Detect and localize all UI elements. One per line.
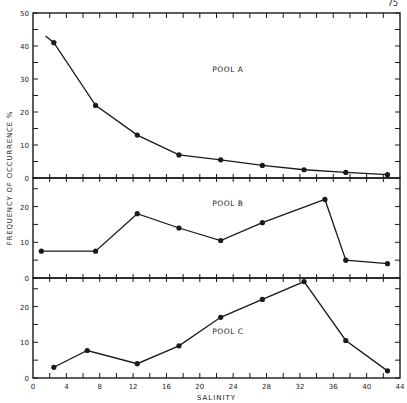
data-point — [343, 258, 348, 263]
data-point — [135, 211, 140, 216]
data-point — [301, 167, 306, 172]
x-tick-label: 44 — [396, 383, 405, 391]
y-tick-label: 50 — [20, 10, 29, 18]
x-tick-label: 4 — [64, 383, 69, 391]
data-line — [41, 199, 387, 263]
salinity-frequency-chart: 75 01020304050POOL A01020POOL B01020POOL… — [0, 0, 407, 403]
panel-frame — [33, 178, 400, 278]
y-tick-label: 20 — [20, 204, 29, 212]
data-point — [385, 261, 390, 266]
panel-pool-c: 01020POOL C — [20, 278, 400, 383]
x-tick-label: 24 — [229, 383, 238, 391]
y-tick-label: 20 — [20, 109, 29, 117]
x-tick-label: 12 — [129, 383, 138, 391]
data-point — [51, 365, 56, 370]
y-tick-label: 10 — [20, 339, 29, 347]
data-point — [260, 220, 265, 225]
data-point — [218, 315, 223, 320]
data-point — [301, 279, 306, 284]
panel-pool-b: 01020POOL B — [20, 178, 400, 283]
x-tick-label: 32 — [295, 383, 304, 391]
data-point — [385, 172, 390, 177]
data-point — [260, 297, 265, 302]
data-point — [176, 152, 181, 157]
y-tick-label: 30 — [20, 76, 29, 84]
chart-panels: 01020304050POOL A01020POOL B01020POOL C — [20, 10, 400, 383]
page-header: 75 — [388, 0, 398, 8]
data-point — [260, 163, 265, 168]
data-point — [135, 133, 140, 138]
y-tick-label: 0 — [25, 275, 29, 283]
data-point — [343, 170, 348, 175]
page-number: 75 — [388, 0, 398, 8]
y-tick-label: 20 — [20, 304, 29, 312]
y-tick-label: 0 — [25, 375, 29, 383]
x-tick-label: 16 — [162, 383, 171, 391]
x-tick-label: 28 — [262, 383, 271, 391]
data-point — [51, 40, 56, 45]
panel-label: POOL C — [212, 327, 243, 336]
data-point — [343, 338, 348, 343]
x-tick-label: 20 — [195, 383, 204, 391]
panel-pool-a: 01020304050POOL A — [20, 10, 400, 183]
y-tick-label: 10 — [20, 142, 29, 150]
data-point — [176, 343, 181, 348]
y-tick-label: 0 — [25, 175, 29, 183]
x-tick-label: 40 — [362, 383, 371, 391]
data-point — [218, 157, 223, 162]
data-point — [176, 225, 181, 230]
y-tick-label: 40 — [20, 43, 29, 51]
data-point — [85, 348, 90, 353]
y-tick-label: 10 — [20, 239, 29, 247]
data-point — [385, 368, 390, 373]
x-tick-label: 36 — [329, 383, 338, 391]
panel-label: POOL B — [212, 199, 243, 208]
data-point — [135, 361, 140, 366]
panel-frame — [33, 13, 400, 178]
data-point — [93, 249, 98, 254]
x-tick-label: 0 — [31, 383, 35, 391]
data-point — [93, 103, 98, 108]
x-axis-title: SALINITY — [197, 394, 236, 402]
data-point — [218, 238, 223, 243]
data-point — [39, 249, 44, 254]
data-point — [322, 197, 327, 202]
x-tick-label: 8 — [97, 383, 101, 391]
panel-label: POOL A — [212, 65, 243, 74]
y-axis-title: FREQUENCY OF OCCURRENCE % — [6, 111, 14, 246]
